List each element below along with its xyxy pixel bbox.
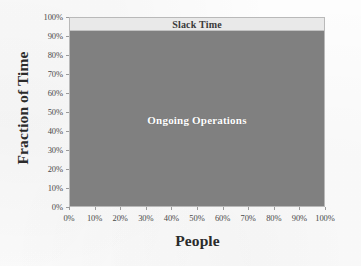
- x-axis-tick-mark: [171, 207, 172, 210]
- y-axis-tick-label: 50%: [33, 107, 63, 117]
- y-axis-tick-label: 0%: [33, 202, 63, 212]
- y-axis-tick-label: 20%: [33, 164, 63, 174]
- x-axis-tick-mark: [299, 207, 300, 210]
- y-axis-tick-label: 10%: [33, 183, 63, 193]
- x-axis-tick-mark: [69, 207, 70, 210]
- x-axis-tick-mark: [325, 207, 326, 210]
- x-axis-title: People: [69, 232, 326, 250]
- y-axis-tick-label: 90%: [33, 31, 63, 41]
- x-axis-tick-mark: [223, 207, 224, 210]
- x-axis-tick-mark: [95, 207, 96, 210]
- y-axis-tick-label: 80%: [33, 50, 63, 60]
- x-axis-tick-mark: [197, 207, 198, 210]
- x-axis-tick-mark: [274, 207, 275, 210]
- area-band-slack-time: Slack Time: [70, 18, 324, 31]
- x-axis-tick-mark: [248, 207, 249, 210]
- plot-area: Slack Time Ongoing Operations: [69, 17, 325, 207]
- x-axis-tick-label: 100%: [308, 213, 342, 223]
- y-axis-tick-label: 70%: [33, 69, 63, 79]
- y-axis-tick-label: 100%: [33, 12, 63, 22]
- y-axis-tick-label: 30%: [33, 145, 63, 155]
- chart-figure: Fraction of Time 0%10%20%30%40%50%60%70%…: [0, 0, 361, 266]
- x-axis-tick-mark: [146, 207, 147, 210]
- y-axis-tick-label: 40%: [33, 126, 63, 136]
- x-axis-tick-mark: [120, 207, 121, 210]
- area-band-ongoing-operations: Ongoing Operations: [70, 31, 324, 207]
- y-axis-tick-label: 60%: [33, 88, 63, 98]
- area-band-ongoing-operations-label: Ongoing Operations: [147, 114, 246, 126]
- area-band-slack-time-label: Slack Time: [172, 19, 222, 30]
